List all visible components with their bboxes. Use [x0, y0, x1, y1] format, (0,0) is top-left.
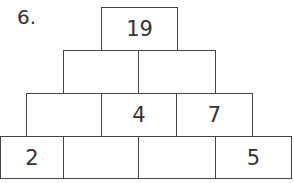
pyramid-cell[interactable] [26, 93, 102, 137]
pyramid-cell[interactable] [63, 136, 139, 179]
pyramid-cell[interactable]: 5 [215, 136, 292, 179]
pyramid-cell[interactable] [138, 136, 216, 179]
pyramid-cell[interactable]: 2 [0, 136, 64, 179]
pyramid-cell[interactable]: 19 [101, 7, 178, 51]
pyramid-cell[interactable] [63, 50, 139, 94]
pyramid-cell[interactable]: 4 [101, 93, 177, 137]
pyramid-cell[interactable]: 7 [176, 93, 253, 137]
pyramid-cell[interactable] [138, 50, 216, 94]
problem-number: 6. [17, 5, 36, 29]
